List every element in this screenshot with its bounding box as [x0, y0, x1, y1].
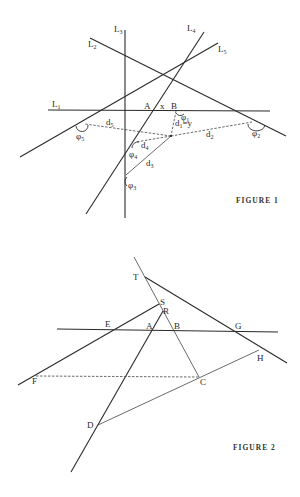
figure-2: T S R E A B G H F C D FIGURE 2 [18, 257, 287, 472]
label-point-c: C [200, 377, 206, 387]
line-eg [57, 329, 278, 332]
label-segment-x: x [160, 101, 165, 111]
label-point-t: T [133, 272, 139, 282]
label-point-g: G [235, 321, 242, 331]
label-point-d: D [87, 420, 94, 430]
figure-1-caption: FIGURE 1 [236, 196, 279, 205]
label-l3: L3 [114, 24, 123, 35]
line-sf [18, 304, 159, 385]
label-point-a: A [144, 101, 151, 111]
line-tg [145, 277, 287, 363]
angle-arc-phi4 [132, 142, 139, 148]
label-phi3: φ3 [128, 180, 136, 191]
figure-1: L1 L2 L3 L4 L5 A x B d1=y d2 d3 d4 d5 φ1… [20, 23, 286, 218]
distance-d5 [85, 124, 171, 136]
label-d4: d4 [141, 140, 149, 151]
label-point-h: H [257, 353, 264, 363]
line-fc [36, 376, 199, 377]
label-phi2: φ2 [252, 128, 260, 139]
line-dh [98, 350, 259, 425]
point-p [170, 135, 172, 137]
line-l5 [20, 43, 218, 157]
figure-2-caption: FIGURE 2 [233, 443, 276, 452]
label-point-e: E [105, 319, 111, 329]
label-l4: L4 [187, 23, 196, 34]
geometry-figures: L1 L2 L3 L4 L5 A x B d1=y d2 d3 d4 d5 φ1… [0, 0, 300, 497]
line-rd [71, 311, 163, 472]
label-d2: d2 [206, 129, 214, 140]
label-d3: d3 [146, 158, 154, 169]
label-point-r: R [163, 306, 169, 316]
line-tc [134, 257, 199, 377]
label-phi4: φ4 [129, 149, 137, 160]
label-point-b: B [174, 321, 180, 331]
label-l5: L5 [218, 44, 227, 55]
label-point-b: B [171, 101, 177, 111]
label-point-f: F [32, 376, 37, 386]
label-phi5: φ5 [76, 131, 84, 142]
label-phi1: φ1 [181, 112, 189, 123]
label-l1: L1 [52, 99, 61, 110]
label-d5: d5 [106, 117, 114, 128]
label-point-a: A [146, 321, 153, 331]
